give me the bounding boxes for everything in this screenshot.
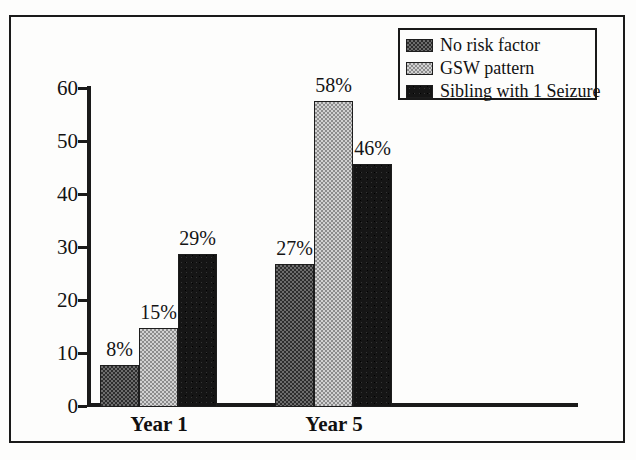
legend-label-no-risk-factor: No risk factor — [440, 36, 540, 54]
bar-label-year1-gsw-pattern: 15% — [123, 302, 194, 322]
y-tick-mark-10 — [78, 352, 87, 355]
legend-swatch-gsw-pattern — [406, 62, 433, 75]
plot-area: 60 50 40 30 20 10 0 — [0, 0, 636, 460]
y-tick-mark-60 — [78, 87, 87, 90]
chart-legend: No risk factor GSW pattern Sibling with … — [398, 28, 597, 100]
bar-year1-sibling-1-seizure[interactable] — [178, 254, 217, 407]
y-tick-0: 0 — [20, 396, 78, 417]
y-tick-40: 40 — [20, 184, 78, 205]
y-tick-mark-50 — [78, 140, 87, 143]
bar-year1-no-risk-factor[interactable] — [100, 365, 139, 407]
x-axis-label-year-1: Year 1 — [98, 414, 220, 435]
legend-label-sibling-1-seizure: Sibling with 1 Seizure — [440, 82, 601, 100]
legend-item-gsw-pattern[interactable]: GSW pattern — [406, 57, 595, 79]
bar-year5-no-risk-factor[interactable] — [275, 264, 314, 407]
y-tick-mark-30 — [78, 246, 87, 249]
y-tick-50: 50 — [20, 131, 78, 152]
bar-label-year5-sibling-1-seizure: 46% — [337, 138, 408, 158]
y-tick-label-50: 50 — [32, 131, 78, 152]
y-tick-label-60: 60 — [32, 78, 78, 99]
bar-label-year5-gsw-pattern: 58% — [298, 75, 369, 95]
bar-label-year1-no-risk-factor: 8% — [88, 339, 151, 359]
y-tick-label-10: 10 — [32, 343, 78, 364]
bar-label-year1-sibling-1-seizure: 29% — [162, 228, 233, 248]
y-tick-label-0: 0 — [32, 396, 78, 417]
y-tick-label-40: 40 — [32, 184, 78, 205]
y-tick-label-20: 20 — [32, 290, 78, 311]
y-tick-10: 10 — [20, 343, 78, 364]
x-axis-label-year-5: Year 5 — [273, 414, 395, 435]
legend-item-sibling-1-seizure[interactable]: Sibling with 1 Seizure — [406, 80, 595, 102]
y-tick-label-30: 30 — [32, 237, 78, 258]
legend-item-no-risk-factor[interactable]: No risk factor — [406, 34, 595, 56]
legend-label-gsw-pattern: GSW pattern — [440, 59, 534, 77]
y-tick-mark-0 — [78, 405, 87, 408]
legend-swatch-sibling-1-seizure — [406, 85, 433, 98]
y-tick-20: 20 — [20, 290, 78, 311]
y-tick-mark-20 — [78, 299, 87, 302]
y-tick-mark-40 — [78, 193, 87, 196]
chart-root: 60 50 40 30 20 10 0 — [0, 0, 636, 460]
bar-label-year5-no-risk-factor: 27% — [259, 238, 330, 258]
y-tick-60: 60 — [20, 78, 78, 99]
y-tick-30: 30 — [20, 237, 78, 258]
legend-swatch-no-risk-factor — [406, 39, 433, 52]
bar-year5-sibling-1-seizure[interactable] — [353, 164, 392, 407]
